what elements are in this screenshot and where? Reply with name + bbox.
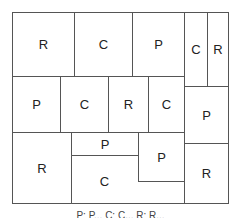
cell-label: R (202, 166, 211, 181)
cell-r: R (184, 143, 229, 204)
cell-label: P (157, 150, 166, 165)
cell-label: C (100, 174, 109, 189)
legend: P: P... C: C... R: R... (0, 210, 241, 218)
cell-c: C (71, 160, 138, 203)
cell-p: P (138, 132, 185, 182)
